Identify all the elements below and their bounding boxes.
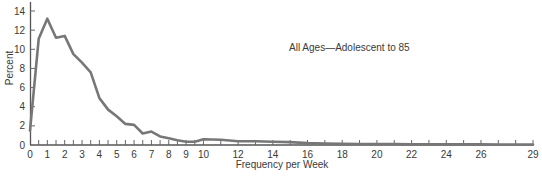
x-tick-label: 4 — [97, 149, 103, 160]
plot-area — [30, 19, 533, 145]
x-tick-label: 20 — [371, 149, 383, 160]
x-tick-label: 8 — [166, 149, 172, 160]
x-axis-title: Frequency per Week — [236, 159, 330, 170]
x-tick-label: 2 — [62, 149, 68, 160]
x-tick-label: 22 — [406, 149, 418, 160]
x-tick-label: 0 — [27, 149, 33, 160]
y-tick-label: 2 — [19, 120, 25, 131]
x-tick-label: 6 — [131, 149, 137, 160]
x-tick-label: 29 — [527, 149, 539, 160]
x-tick-label: 1 — [45, 149, 51, 160]
x-tick-label: 5 — [114, 149, 120, 160]
x-tick-label: 3 — [79, 149, 85, 160]
y-axis: 02468101214 — [14, 2, 35, 151]
y-tick-label: 8 — [19, 63, 25, 74]
y-ticks: 02468101214 — [14, 6, 35, 151]
frequency-chart: 02468101214 0123456789101214161820222426… — [0, 0, 542, 178]
y-tick-label: 10 — [14, 44, 26, 55]
y-axis-title: Percent — [4, 51, 15, 86]
y-tick-label: 14 — [14, 6, 26, 17]
x-tick-label: 24 — [441, 149, 453, 160]
x-tick-label: 18 — [337, 149, 349, 160]
x-tick-label: 7 — [149, 149, 155, 160]
y-tick-label: 6 — [19, 82, 25, 93]
x-tick-label: 10 — [198, 149, 210, 160]
x-tick-label: 26 — [475, 149, 487, 160]
y-tick-label: 4 — [19, 101, 25, 112]
series-line — [30, 19, 533, 145]
x-tick-label: 9 — [183, 149, 189, 160]
y-tick-label: 12 — [14, 25, 26, 36]
y-tick-label: 0 — [19, 140, 25, 151]
series-annotation: All Ages—Adolescent to 85 — [289, 42, 410, 53]
